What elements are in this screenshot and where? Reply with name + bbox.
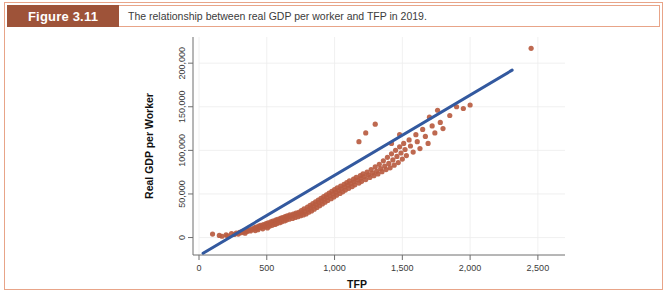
scatter-point [393, 148, 398, 153]
scatter-point [397, 144, 402, 149]
scatter-point [413, 132, 418, 137]
x-tick-label: 1,500 [391, 263, 414, 273]
scatter-point [396, 160, 401, 165]
scatter-point [423, 134, 428, 139]
trend-line [203, 70, 512, 253]
y-tick-label: 100,000 [177, 134, 187, 167]
x-tick-label: 1,000 [323, 263, 346, 273]
scatter-point [210, 231, 215, 236]
scatter-point [447, 113, 452, 118]
scatter-point [430, 123, 435, 128]
scatter-point [363, 130, 368, 135]
figure-number-label: Figure 3.11 [7, 5, 119, 27]
x-tick-label: 2,000 [459, 263, 482, 273]
figure-container: Figure 3.11 The relationship between rea… [4, 2, 663, 290]
scatter-point [432, 130, 437, 135]
y-tick-label: 200,000 [177, 47, 187, 80]
scatter-point [438, 120, 443, 125]
scatter-point [394, 154, 399, 159]
x-tick-label: 0 [196, 263, 201, 273]
figure-header: Figure 3.11 The relationship between rea… [7, 5, 660, 27]
scatter-point [529, 46, 534, 51]
x-tick-label: 500 [259, 263, 274, 273]
scatter-point [404, 153, 409, 158]
scatter-point [440, 126, 445, 131]
scatter-point [356, 139, 361, 144]
scatter-point [402, 147, 407, 152]
scatter-point [400, 156, 405, 161]
scatter-point [461, 106, 466, 111]
scatter-point [408, 143, 413, 148]
scatter-plot: 050,000100,000150,000200,000 05001,0001,… [5, 29, 664, 289]
y-tick-label: 0 [177, 235, 187, 240]
scatter-point [417, 146, 422, 151]
y-axis-ticks: 050,000100,000150,000200,000 [177, 47, 193, 240]
x-axis-ticks: 05001,0001,5002,0002,500 [196, 255, 549, 273]
scatter-point [425, 141, 430, 146]
scatter-point [415, 139, 420, 144]
y-tick-label: 150,000 [177, 90, 187, 123]
scatter-point [389, 151, 394, 156]
y-tick-label: 50,000 [177, 180, 187, 208]
scatter-point [373, 122, 378, 127]
scatter-point [407, 137, 412, 142]
figure-caption: The relationship between real GDP per wo… [119, 5, 660, 27]
scatter-point [401, 141, 406, 146]
scatter-point [468, 102, 473, 107]
scatter-point [385, 155, 390, 160]
scatter-point [381, 158, 386, 163]
scatter-point [390, 157, 395, 162]
y-axis-title: Real GDP per Worker [143, 93, 155, 199]
scatter-point [420, 127, 425, 132]
x-tick-label: 2,500 [527, 263, 550, 273]
x-axis-title: TFP [347, 278, 367, 289]
scatter-points [210, 46, 534, 239]
chart-svg: 050,000100,000150,000200,000 05001,0001,… [5, 29, 664, 289]
scatter-point [398, 150, 403, 155]
scatter-point [411, 150, 416, 155]
